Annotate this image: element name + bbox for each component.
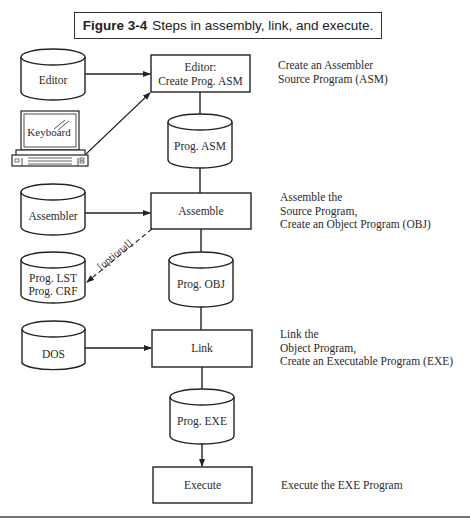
dos-label: DOS <box>22 347 85 361</box>
assemble-step-label: Assemble <box>151 204 251 218</box>
description-line: Execute the EXE Program <box>281 479 403 493</box>
description-line: Assemble the <box>280 191 431 205</box>
keyboard-arrow <box>86 93 150 154</box>
description-line: Source Program (ASM) <box>278 73 388 87</box>
description-line: Link the <box>280 328 453 342</box>
prog-obj-label: Prog. OBJ <box>169 277 233 291</box>
description-line: Source Program, <box>280 205 431 219</box>
execute-step-label: Execute <box>153 478 252 492</box>
prog-asm-label: Prog. ASM <box>168 139 232 153</box>
prog-exe-label: Prog. EXE <box>170 414 234 428</box>
step-description-execute: Execute the EXE Program <box>281 479 403 493</box>
editor-label: Editor <box>21 73 85 87</box>
figure-canvas: Figure 3-4 Steps in assembly, link, and … <box>0 0 470 524</box>
description-line: Create an Object Program (OBJ) <box>280 218 431 232</box>
step-description-link: Link the Object Program, Create an Execu… <box>280 328 453 369</box>
dos-cylinder-icon <box>22 321 85 370</box>
listing-label-lst: Prog. LST <box>21 271 85 285</box>
assembler-label: Assembler <box>21 209 85 223</box>
description-line: Create an Assembler <box>278 59 388 73</box>
description-line: Object Program, <box>280 342 453 356</box>
link-step-label: Link <box>152 341 252 355</box>
description-line: Create an Executable Program (EXE) <box>280 355 453 369</box>
editor-step-label-line1: Editor: <box>151 60 250 74</box>
step-description-assemble: Assemble the Source Program, Create an O… <box>280 191 431 232</box>
editor-step-label-line2: Create Prog. ASM <box>151 74 250 88</box>
step-description-create: Create an Assembler Source Program (ASM) <box>278 59 388 86</box>
listing-label-crf: Prog. CRF <box>21 284 85 298</box>
keyboard-label: Keyboard <box>22 125 76 139</box>
